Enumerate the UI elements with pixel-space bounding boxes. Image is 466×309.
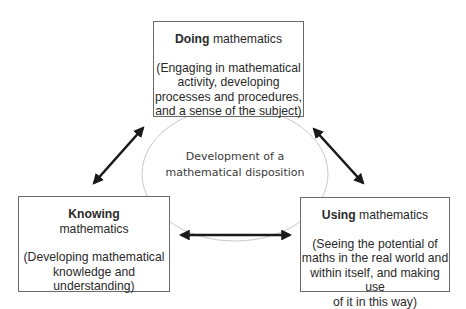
knowing-title-rest: mathematics	[19, 222, 169, 237]
doing-description: (Engaging in mathematical activity, deve…	[154, 61, 303, 119]
knowing-desc-line: understanding)	[19, 279, 169, 294]
using-title-bold: Using	[322, 208, 356, 222]
using-title: Using mathematics	[301, 208, 449, 223]
using-mathematics-box: Using mathematics (Seeing the potential …	[300, 197, 450, 292]
doing-title-rest: mathematics	[210, 32, 282, 46]
doing-desc-line: (Engaging in mathematical	[154, 61, 303, 76]
using-desc-line: maths in the real world and	[301, 251, 449, 266]
center-label-line1: Development of a	[160, 149, 310, 165]
using-desc-line: within itself, and making use	[301, 266, 449, 295]
knowing-desc-line: (Developing mathematical	[19, 250, 169, 265]
doing-title: Doing mathematics	[154, 32, 303, 47]
knowing-title: Knowing mathematics	[19, 207, 169, 236]
arrow-doing-using	[314, 129, 363, 183]
doing-desc-line: and a sense of the subject)	[154, 104, 303, 119]
using-desc-line: of it in this way)	[301, 295, 449, 309]
knowing-mathematics-box: Knowing mathematics (Developing mathemat…	[18, 196, 170, 292]
using-title-rest: mathematics	[356, 208, 428, 222]
center-label-line2: mathematical disposition	[160, 165, 310, 181]
knowing-title-bold: Knowing	[68, 207, 119, 221]
using-desc-line: (Seeing the potential of	[301, 237, 449, 252]
doing-desc-line: processes and procedures,	[154, 90, 303, 105]
doing-title-bold: Doing	[175, 32, 210, 46]
arrow-doing-knowing	[94, 128, 143, 183]
using-description: (Seeing the potential of maths in the re…	[301, 237, 449, 309]
knowing-desc-line: knowledge and	[19, 265, 169, 280]
doing-desc-line: activity, developing	[154, 75, 303, 90]
knowing-description: (Developing mathematical knowledge and u…	[19, 250, 169, 294]
center-label: Development of a mathematical dispositio…	[160, 149, 310, 181]
doing-mathematics-box: Doing mathematics (Engaging in mathemati…	[153, 21, 304, 117]
